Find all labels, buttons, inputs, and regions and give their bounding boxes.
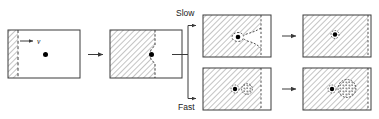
- velocity-label: v: [37, 37, 41, 46]
- branch-to-slow-arrow: [188, 26, 196, 55]
- panel-fast-front-with-void: [203, 68, 271, 110]
- branch-label-fast: Fast: [178, 102, 195, 112]
- particle-dot: [233, 87, 237, 91]
- branch-connector: Slow Fast: [172, 8, 196, 112]
- nucleus-void: [242, 84, 253, 95]
- diagram-canvas: v Slow Fast: [0, 0, 379, 119]
- particle-dot: [333, 32, 337, 36]
- panel-fast-void-grown: [303, 68, 371, 110]
- particle-dot: [149, 52, 154, 57]
- nucleus-void-grown: [338, 80, 356, 98]
- particle-dot: [330, 87, 334, 91]
- branch-to-fast-arrow: [188, 55, 196, 99]
- panel-slow-particle-engulfed: [303, 15, 371, 57]
- front-propagation-diagram: v Slow Fast: [0, 0, 379, 119]
- transformed-region-hatch: [8, 30, 18, 78]
- panel-initial-front: v: [8, 30, 80, 78]
- panel-slow-front-engulfing: [203, 15, 271, 57]
- branch-label-slow: Slow: [176, 8, 195, 18]
- transformed-region-hatch: [110, 30, 155, 78]
- particle-dot: [43, 52, 48, 57]
- particle-dot: [236, 35, 241, 40]
- panel-front-reaches-particle: [110, 30, 182, 78]
